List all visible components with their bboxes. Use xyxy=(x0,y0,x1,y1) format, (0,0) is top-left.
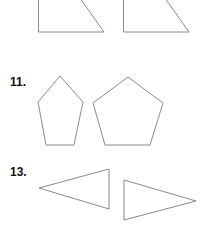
right-pointing-triangle-shape xyxy=(124,180,196,220)
top-right-trapezoid-shape xyxy=(124,0,190,32)
small-pentagon-shape xyxy=(38,76,83,145)
left-pointing-triangle-shape xyxy=(39,169,109,209)
figure-canvas xyxy=(0,0,210,229)
large-pentagon-shape xyxy=(93,77,163,145)
top-left-trapezoid-shape xyxy=(39,0,105,32)
